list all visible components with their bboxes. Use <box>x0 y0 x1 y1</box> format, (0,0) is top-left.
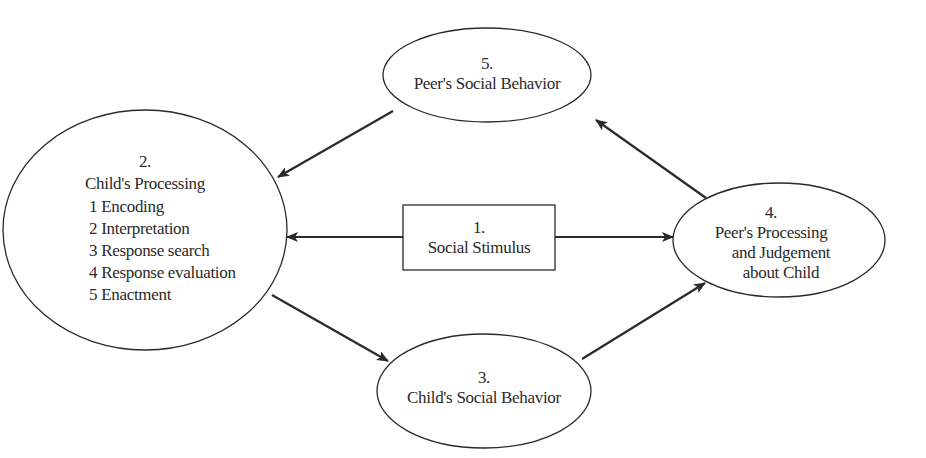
step-4: 4 Response evaluation <box>89 262 236 284</box>
edge-2-to-3 <box>272 295 388 361</box>
node-4-title-line-1: Peer's Processing <box>686 223 856 243</box>
node-2-steps: 1 Encoding 2 Interpretation 3 Response s… <box>89 196 236 306</box>
edge-5-to-2 <box>278 111 393 177</box>
node-3-number: 3. <box>384 368 584 388</box>
node-2-title: Child's Processing <box>60 174 230 194</box>
node-2-label: 2. Child's Processing <box>60 152 230 194</box>
node-2-number: 2. <box>60 152 230 172</box>
step-2: 2 Interpretation <box>89 218 236 240</box>
edge-3-to-4 <box>582 283 705 359</box>
node-1-label: 1. Social Stimulus <box>403 218 555 258</box>
node-4-title-line-3: about Child <box>686 263 856 283</box>
node-4-number: 4. <box>686 203 856 223</box>
step-1: 1 Encoding <box>89 196 236 218</box>
step-3: 3 Response search <box>89 240 236 262</box>
node-1-title: Social Stimulus <box>403 238 555 258</box>
node-5-title: Peer's Social Behavior <box>387 74 587 94</box>
step-5: 5 Enactment <box>89 284 236 306</box>
node-4-title-line-2: and Judgement <box>686 243 856 263</box>
node-1-number: 1. <box>403 218 555 238</box>
node-3-label: 3. Child's Social Behavior <box>384 368 584 408</box>
node-4-label: 4. Peer's Processing and Judgement about… <box>686 203 856 283</box>
edge-4-to-5 <box>596 120 706 198</box>
node-5-label: 5. Peer's Social Behavior <box>387 54 587 94</box>
node-3-title: Child's Social Behavior <box>384 388 584 408</box>
node-5-number: 5. <box>387 54 587 74</box>
